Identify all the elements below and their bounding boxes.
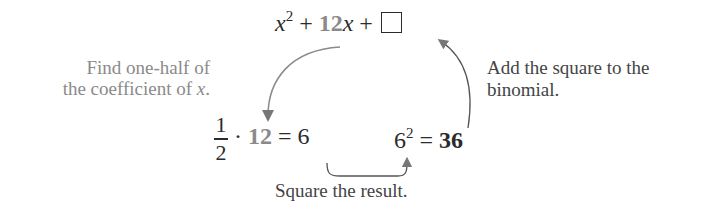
half-result: 6 [298,123,310,149]
x-variable: x [343,10,354,36]
right-note-line2: binomial. [487,79,650,101]
arrow-square-to-binomial [442,42,470,128]
square-exponent: 2 [406,125,414,141]
right-note-line1: Add the square to the [487,57,650,79]
x-squared-base: x [275,10,286,36]
equals-sign: = [278,123,292,149]
equals-sign: = [420,127,434,153]
half-coefficient: 12 [248,123,272,149]
square-expression: 62 = 36 [394,127,463,154]
left-note-line1: Find one-half of [60,57,210,79]
top-expression: x2 + 12x + [275,10,402,37]
multiply-dot: · [234,123,242,149]
fraction-one-half: 1 2 [214,114,228,164]
left-note-line2: the coefficient of x. [30,78,210,100]
plus-sign: + [359,10,373,36]
arrow-result-to-square [327,162,407,176]
plus-sign: + [299,10,313,36]
right-note: Add the square to the binomial. [487,57,650,101]
left-note: Find one-half of [60,57,210,79]
bottom-note: Square the result. [275,180,407,202]
square-base: 6 [394,127,406,153]
half-expression: 1 2 · 12 = 6 [214,114,310,164]
square-result: 36 [439,127,463,153]
x-squared-exponent: 2 [286,8,294,24]
linear-coefficient: 12 [319,10,343,36]
blank-box-icon [381,12,402,33]
arrow-coef-to-half [268,47,340,116]
